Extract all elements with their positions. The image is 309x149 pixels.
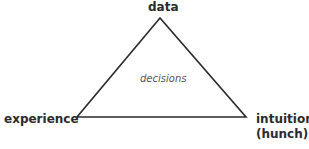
vertex-label-hunch: (hunch)	[256, 127, 308, 141]
vertex-label-data: data	[148, 0, 179, 14]
vertex-label-intuition: intuition	[256, 112, 309, 126]
center-label-decisions: decisions	[140, 73, 186, 84]
vertex-label-experience: experience	[4, 112, 79, 126]
